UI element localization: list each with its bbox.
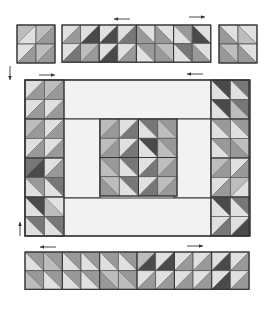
- half-square-triangle: [211, 139, 231, 159]
- half-square-triangle: [81, 44, 100, 63]
- half-square-triangle: [231, 217, 251, 237]
- half-square-triangle: [139, 177, 158, 196]
- half-square-triangle: [231, 100, 251, 120]
- half-square-triangle: [45, 80, 65, 100]
- half-square-triangle: [44, 252, 63, 271]
- half-square-triangle: [119, 158, 138, 177]
- half-square-triangle: [231, 119, 251, 139]
- half-square-triangle: [81, 25, 100, 44]
- half-square-triangle: [44, 271, 63, 290]
- half-square-triangle: [192, 44, 211, 63]
- half-square-triangle: [45, 158, 65, 178]
- half-square-triangle: [36, 44, 55, 63]
- half-square-triangle: [211, 80, 231, 100]
- half-square-triangle: [155, 44, 174, 63]
- left-column: [25, 80, 64, 236]
- half-square-triangle: [99, 25, 118, 44]
- half-square-triangle: [25, 100, 45, 120]
- half-square-triangle: [174, 252, 193, 271]
- half-square-triangle: [25, 197, 45, 217]
- half-square-triangle: [17, 44, 36, 63]
- top-middle-strip: [62, 25, 211, 62]
- half-square-triangle: [158, 138, 177, 157]
- arrow-side-up-icon: [18, 222, 22, 236]
- half-square-triangle: [211, 217, 231, 237]
- half-square-triangle: [192, 25, 211, 44]
- half-square-triangle: [136, 25, 155, 44]
- half-square-triangle: [45, 139, 65, 159]
- top-sashing-panel: [63, 80, 211, 119]
- half-square-triangle: [193, 252, 212, 271]
- half-square-triangle: [231, 197, 251, 217]
- half-square-triangle: [17, 25, 36, 44]
- half-square-triangle: [231, 178, 251, 198]
- arrow-frame-top-left-icon: [39, 73, 55, 77]
- half-square-triangle: [45, 197, 65, 217]
- center-medallion: [100, 119, 177, 196]
- half-square-triangle: [25, 139, 45, 159]
- pieced-units: [17, 25, 257, 289]
- half-square-triangle: [118, 25, 137, 44]
- right-inner-panel: [174, 119, 211, 198]
- top-right-block: [219, 25, 257, 63]
- half-square-triangle: [137, 252, 156, 271]
- half-square-triangle: [212, 252, 231, 271]
- bottom-strip: [25, 252, 249, 289]
- half-square-triangle: [119, 119, 138, 138]
- arrow-frame-top-right-icon: [187, 72, 203, 76]
- arrow-bottom-left-icon: [40, 245, 56, 249]
- half-square-triangle: [238, 25, 257, 44]
- quilt-diagram-canvas: [0, 0, 267, 309]
- half-square-triangle: [62, 271, 81, 290]
- half-square-triangle: [100, 177, 119, 196]
- half-square-triangle: [219, 25, 238, 44]
- half-square-triangle: [219, 44, 238, 63]
- half-square-triangle: [118, 44, 137, 63]
- half-square-triangle: [25, 217, 45, 237]
- half-square-triangle: [231, 158, 251, 178]
- half-square-triangle: [136, 44, 155, 63]
- top-left-block: [17, 25, 55, 63]
- half-square-triangle: [174, 44, 193, 63]
- half-square-triangle: [230, 252, 249, 271]
- half-square-triangle: [118, 252, 137, 271]
- half-square-triangle: [156, 271, 175, 290]
- half-square-triangle: [45, 178, 65, 198]
- half-square-triangle: [25, 178, 45, 198]
- half-square-triangle: [212, 271, 231, 290]
- half-square-triangle: [25, 80, 45, 100]
- half-square-triangle: [100, 158, 119, 177]
- half-square-triangle: [25, 158, 45, 178]
- half-square-triangle: [62, 44, 81, 63]
- half-square-triangle: [25, 271, 44, 290]
- half-square-triangle: [99, 44, 118, 63]
- half-square-triangle: [156, 252, 175, 271]
- half-square-triangle: [231, 80, 251, 100]
- half-square-triangle: [100, 271, 119, 290]
- half-square-triangle: [211, 100, 231, 120]
- half-square-triangle: [45, 217, 65, 237]
- half-square-triangle: [230, 271, 249, 290]
- half-square-triangle: [139, 119, 158, 138]
- quilt-assembly-diagram: [0, 0, 267, 309]
- half-square-triangle: [155, 25, 174, 44]
- half-square-triangle: [158, 119, 177, 138]
- half-square-triangle: [211, 158, 231, 178]
- half-square-triangle: [231, 139, 251, 159]
- half-square-triangle: [45, 100, 65, 120]
- half-square-triangle: [139, 138, 158, 157]
- half-square-triangle: [100, 138, 119, 157]
- half-square-triangle: [100, 119, 119, 138]
- half-square-triangle: [81, 271, 100, 290]
- arrow-side-down-icon: [8, 66, 12, 80]
- half-square-triangle: [158, 158, 177, 177]
- half-square-triangle: [158, 177, 177, 196]
- half-square-triangle: [137, 271, 156, 290]
- half-square-triangle: [211, 178, 231, 198]
- half-square-triangle: [174, 25, 193, 44]
- half-square-triangle: [100, 252, 119, 271]
- half-square-triangle: [139, 158, 158, 177]
- arrow-bottom-right-icon: [187, 244, 203, 248]
- half-square-triangle: [211, 119, 231, 139]
- half-square-triangle: [81, 252, 100, 271]
